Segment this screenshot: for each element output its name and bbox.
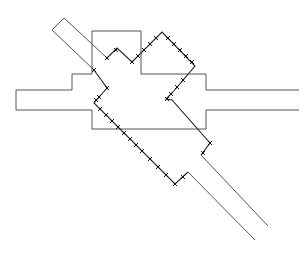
chamber-outline: [16, 31, 299, 129]
cross-markers: [92, 36, 212, 186]
cross-marker-icon: [169, 92, 173, 96]
left-pipe-top: [16, 74, 92, 90]
lower-tube-left: [188, 172, 255, 240]
upper-tube-outer: [52, 18, 107, 70]
cross-marker-icon: [175, 85, 179, 89]
lower-tube-right: [201, 155, 268, 226]
cross-marker-icon: [98, 107, 102, 111]
cross-marker-icon: [140, 149, 144, 153]
top-box: [92, 31, 299, 90]
cross-marker-icon: [130, 60, 134, 64]
cross-marker-icon: [172, 42, 176, 46]
cross-marker-icon: [166, 36, 170, 40]
cross-marker-icon: [173, 182, 177, 186]
crossed-path-upper: [107, 32, 210, 155]
cross-marker-icon: [105, 86, 109, 90]
diagram-canvas: [0, 0, 305, 258]
cross-marker-icon: [148, 42, 152, 46]
cross-marker-icon: [104, 113, 108, 117]
cross-marker-icon: [156, 165, 160, 169]
cross-marker-icon: [148, 157, 152, 161]
cross-marker-icon: [105, 56, 109, 60]
crossed-path: [94, 32, 210, 184]
cross-marker-icon: [164, 173, 168, 177]
left-pipe-bottom: [16, 110, 299, 129]
cross-marker-icon: [154, 36, 158, 40]
cross-marker-icon: [134, 143, 138, 147]
cross-marker-icon: [110, 119, 114, 123]
cross-marker-icon: [208, 141, 212, 145]
cross-marker-icon: [178, 48, 182, 52]
cross-marker-icon: [181, 78, 185, 82]
cross-marker-icon: [136, 54, 140, 58]
cross-marker-icon: [122, 131, 126, 135]
cross-marker-icon: [128, 137, 132, 141]
cross-marker-icon: [142, 48, 146, 52]
cross-marker-icon: [181, 175, 185, 179]
cross-marker-icon: [92, 68, 96, 72]
cross-marker-icon: [116, 125, 120, 129]
